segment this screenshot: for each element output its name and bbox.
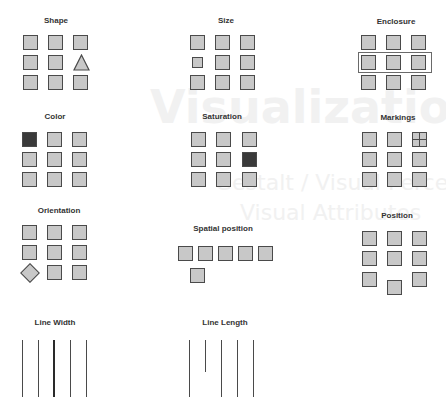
line bbox=[221, 340, 222, 397]
square bbox=[47, 152, 62, 167]
square bbox=[22, 245, 37, 260]
square bbox=[191, 172, 206, 187]
square bbox=[72, 265, 87, 280]
square bbox=[411, 35, 426, 50]
square bbox=[23, 35, 38, 50]
square bbox=[387, 231, 402, 246]
square bbox=[215, 75, 230, 90]
short-line bbox=[205, 340, 206, 372]
line bbox=[22, 340, 23, 397]
square bbox=[362, 251, 377, 266]
square bbox=[386, 55, 401, 70]
square bbox=[22, 225, 37, 240]
square bbox=[178, 246, 193, 261]
square bbox=[240, 55, 255, 70]
square bbox=[361, 55, 376, 70]
square bbox=[362, 272, 377, 287]
square bbox=[73, 75, 88, 90]
square bbox=[23, 55, 38, 70]
panel-title: Enclosure bbox=[377, 17, 416, 26]
square bbox=[47, 225, 62, 240]
square bbox=[242, 172, 257, 187]
panel-title: Position bbox=[381, 211, 413, 220]
square bbox=[48, 75, 63, 90]
dark-square bbox=[242, 152, 257, 167]
square bbox=[412, 152, 427, 167]
dark-square bbox=[22, 132, 37, 147]
square bbox=[72, 225, 87, 240]
square bbox=[240, 35, 255, 50]
line bbox=[237, 340, 238, 397]
square bbox=[362, 231, 377, 246]
square bbox=[216, 152, 231, 167]
thick-line bbox=[53, 340, 55, 397]
square bbox=[23, 75, 38, 90]
square bbox=[47, 245, 62, 260]
line bbox=[253, 340, 254, 397]
square bbox=[47, 265, 62, 280]
square bbox=[215, 35, 230, 50]
square bbox=[48, 55, 63, 70]
square bbox=[22, 152, 37, 167]
square bbox=[412, 172, 427, 187]
panel-title: Saturation bbox=[202, 112, 242, 121]
panel-title: Spatial position bbox=[193, 224, 253, 233]
panel-title: Shape bbox=[44, 16, 68, 25]
square bbox=[218, 246, 233, 261]
square bbox=[72, 132, 87, 147]
marked-square-icon bbox=[412, 132, 427, 147]
square bbox=[73, 35, 88, 50]
square bbox=[191, 152, 206, 167]
square bbox=[362, 132, 377, 147]
square bbox=[47, 132, 62, 147]
offset-square bbox=[190, 268, 205, 283]
square bbox=[411, 75, 426, 90]
square bbox=[412, 251, 427, 266]
line bbox=[70, 340, 71, 397]
square bbox=[190, 35, 205, 50]
square bbox=[412, 272, 427, 287]
line bbox=[189, 340, 190, 397]
square bbox=[216, 172, 231, 187]
line bbox=[38, 340, 39, 397]
square bbox=[242, 132, 257, 147]
square bbox=[361, 75, 376, 90]
square bbox=[258, 246, 273, 261]
square bbox=[386, 35, 401, 50]
lowered-square bbox=[387, 280, 402, 295]
square bbox=[386, 75, 401, 90]
square bbox=[238, 246, 253, 261]
line bbox=[86, 340, 87, 397]
square bbox=[72, 172, 87, 187]
panel-title: Line Length bbox=[202, 318, 247, 327]
panel-title: Markings bbox=[380, 113, 415, 122]
panel-title: Line Width bbox=[35, 318, 76, 327]
square bbox=[411, 55, 426, 70]
square bbox=[72, 245, 87, 260]
square bbox=[240, 75, 255, 90]
square bbox=[47, 172, 62, 187]
square bbox=[215, 55, 230, 70]
panel-title: Color bbox=[45, 112, 66, 121]
panel-title: Orientation bbox=[38, 206, 81, 215]
diamond-icon bbox=[20, 263, 40, 283]
square bbox=[72, 152, 87, 167]
square bbox=[387, 251, 402, 266]
square bbox=[216, 132, 231, 147]
triangle-icon bbox=[73, 54, 90, 71]
square bbox=[362, 172, 377, 187]
square bbox=[198, 246, 213, 261]
square bbox=[191, 132, 206, 147]
square bbox=[362, 152, 377, 167]
square bbox=[412, 231, 427, 246]
square bbox=[48, 35, 63, 50]
small-square bbox=[192, 57, 203, 68]
square bbox=[387, 132, 402, 147]
square bbox=[387, 152, 402, 167]
panel-title: Size bbox=[218, 16, 234, 25]
square bbox=[387, 172, 402, 187]
square bbox=[22, 172, 37, 187]
square bbox=[190, 75, 205, 90]
square bbox=[361, 35, 376, 50]
